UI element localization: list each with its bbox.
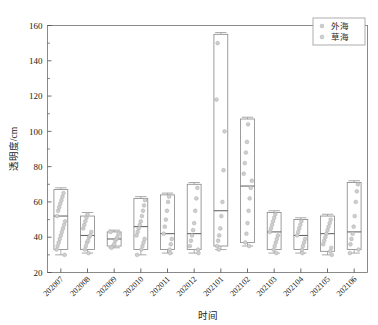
data-point: [110, 246, 114, 250]
data-point: [271, 219, 275, 223]
x-tick-label-202012: 202012: [175, 275, 199, 299]
data-point: [139, 219, 143, 223]
x-tick-label-202106: 202106: [335, 275, 359, 299]
box-group-202106: [347, 181, 361, 255]
data-point: [357, 248, 361, 252]
data-point: [163, 225, 167, 229]
y-tick-label-60: 60: [34, 197, 44, 207]
data-point: [272, 216, 276, 220]
data-point: [162, 232, 166, 236]
y-tick-label-140: 140: [29, 56, 43, 66]
data-point: [86, 239, 90, 243]
box-group-202007: [54, 188, 68, 257]
data-point: [250, 179, 254, 183]
data-point: [55, 248, 59, 252]
data-point: [302, 241, 306, 245]
data-point: [135, 234, 139, 238]
data-point: [169, 242, 173, 246]
data-point: [55, 214, 59, 218]
data-point: [276, 234, 280, 238]
data-point: [167, 195, 171, 199]
data-point: [301, 251, 305, 255]
data-point: [84, 244, 88, 248]
data-point: [351, 232, 355, 236]
data-point: [192, 221, 196, 225]
data-point: [61, 195, 65, 199]
data-point: [355, 189, 359, 193]
legend-label-1: 草海: [331, 32, 349, 42]
data-point: [216, 41, 220, 45]
data-point: [193, 209, 197, 213]
data-point: [83, 219, 87, 223]
legend-marker-1: [320, 35, 324, 39]
data-point: [137, 226, 141, 230]
data-point: [196, 248, 200, 252]
data-point: [348, 251, 352, 255]
data-point: [245, 140, 249, 144]
data-point: [215, 98, 219, 102]
data-point: [349, 242, 353, 246]
data-point: [215, 244, 219, 248]
data-point: [141, 244, 145, 248]
data-point: [195, 186, 199, 190]
data-point: [269, 226, 273, 230]
data-point: [327, 225, 331, 229]
data-point: [168, 251, 172, 255]
data-point: [58, 202, 62, 206]
data-point: [245, 232, 249, 236]
data-point: [191, 228, 195, 232]
data-point: [246, 221, 250, 225]
data-point: [322, 239, 326, 243]
x-tick-label-202102: 202102: [228, 275, 252, 299]
data-point: [354, 200, 358, 204]
data-point: [141, 209, 145, 213]
data-point: [115, 235, 119, 239]
data-point: [86, 212, 90, 216]
y-axis-title: 透明度/cm: [8, 126, 19, 171]
data-point: [218, 226, 222, 230]
data-point: [135, 253, 139, 257]
data-point: [350, 237, 354, 241]
boxplot-chart: 20406080100120140160透明度/cm20200720200820…: [0, 0, 378, 325]
chart-canvas: 20406080100120140160透明度/cm20200720200820…: [0, 0, 378, 325]
data-point: [143, 198, 147, 202]
data-point: [82, 223, 86, 227]
data-point: [352, 225, 356, 229]
data-point: [59, 198, 63, 202]
data-point: [219, 214, 223, 218]
data-point: [296, 230, 300, 234]
data-point: [244, 151, 248, 155]
data-point: [295, 234, 299, 238]
data-point: [81, 226, 85, 230]
y-tick-label-120: 120: [29, 91, 43, 101]
data-point: [329, 246, 333, 250]
data-point: [63, 219, 67, 223]
data-point: [326, 228, 330, 232]
x-tick-label-202007: 202007: [42, 275, 66, 299]
y-tick-label-160: 160: [29, 21, 43, 31]
y-tick-label-40: 40: [34, 232, 44, 242]
x-tick-label-202104: 202104: [282, 275, 306, 299]
data-point: [217, 234, 221, 238]
data-point: [356, 182, 360, 186]
y-tick-label-80: 80: [34, 162, 44, 172]
data-point: [243, 241, 247, 245]
data-point: [164, 218, 168, 222]
data-point: [62, 223, 66, 227]
data-point: [321, 242, 325, 246]
data-point: [61, 226, 65, 230]
box-group-202103: [267, 211, 281, 255]
data-point: [221, 200, 225, 204]
data-point: [329, 218, 333, 222]
x-tick-label-202008: 202008: [68, 275, 92, 299]
data-point: [188, 244, 192, 248]
data-point: [247, 244, 251, 248]
data-point: [275, 237, 279, 241]
data-point: [56, 209, 60, 213]
data-point: [268, 230, 272, 234]
data-point: [63, 253, 67, 257]
data-point: [325, 232, 329, 236]
box-group-202102: [241, 117, 255, 248]
x-tick-label-202011: 202011: [148, 275, 172, 299]
data-point: [272, 248, 276, 252]
